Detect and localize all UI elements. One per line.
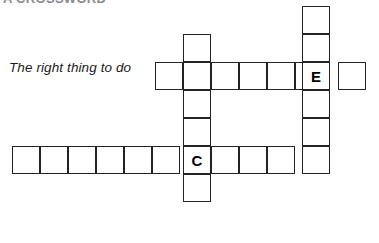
cell-across-lower-7[interactable]: C [183,146,211,174]
cell-letter: C [192,153,203,168]
cell-across-lower-6[interactable] [152,146,180,174]
cell-down-right-1[interactable] [302,6,330,34]
cell-across-lower-5[interactable] [124,146,152,174]
cell-across-upper-3[interactable] [211,62,239,90]
cell-across-lower-1[interactable] [12,146,40,174]
cell-across-lower-9[interactable] [239,146,267,174]
cell-down-left-1[interactable] [183,34,211,62]
clipped-header-text: A CROSSWORD [3,0,106,6]
cell-across-upper-7[interactable] [338,62,366,90]
cell-down-left-6[interactable] [183,174,211,202]
cell-across-lower-8[interactable] [211,146,239,174]
cell-letter: E [311,69,321,84]
cell-down-right-5[interactable] [302,118,330,146]
cell-across-lower-2[interactable] [40,146,68,174]
cell-across-lower-3[interactable] [68,146,96,174]
cell-down-left-3[interactable] [183,90,211,118]
cell-down-right-4[interactable] [302,90,330,118]
cell-across-lower-4[interactable] [96,146,124,174]
cell-across-upper-4[interactable] [239,62,267,90]
cell-across-lower-10[interactable] [267,146,295,174]
cell-across-upper-2[interactable] [183,62,211,90]
cell-down-right-2[interactable] [302,34,330,62]
cell-across-upper-5[interactable] [267,62,295,90]
cell-down-left-4[interactable] [183,118,211,146]
clue-text: The right thing to do [9,60,131,75]
cell-across-lower-11[interactable] [302,146,330,174]
crossword-puzzle: A CROSSWORD The right thing to do EC [0,0,379,243]
cell-down-right-3[interactable]: E [302,62,330,90]
cell-across-upper-1[interactable] [155,62,183,90]
